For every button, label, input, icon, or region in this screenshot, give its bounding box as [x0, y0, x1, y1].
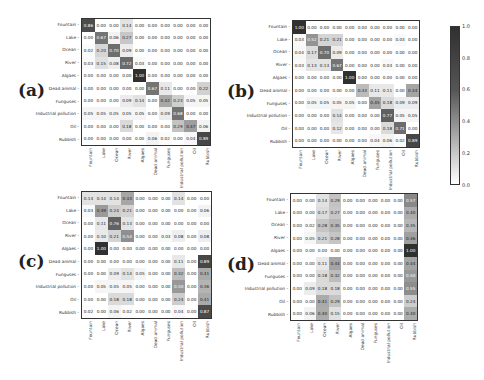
- column-label: Oil: [186, 319, 199, 364]
- matrix-cell: 0.00: [306, 109, 319, 122]
- matrix-cell: 0.00: [356, 34, 369, 47]
- matrix-cell: 0.00: [379, 232, 392, 245]
- matrix-cell: 0.11: [381, 84, 394, 97]
- matrix-cell: 0.05: [121, 280, 134, 293]
- matrix-cell: 0.00: [82, 69, 95, 82]
- matrix-cell: 0.00: [291, 270, 304, 283]
- matrix-cell: 0.17: [316, 207, 329, 220]
- row-label: River -: [21, 56, 81, 69]
- matrix-cell: 0.68: [172, 107, 185, 120]
- confusion-matrix: 0.000.000.140.290.000.000.000.000.000.57…: [290, 193, 418, 321]
- matrix-cell: 0.00: [331, 71, 344, 84]
- matrix-cell: 0.00: [306, 84, 319, 97]
- column-label: Funguses: [367, 321, 380, 366]
- matrix-cell: 0.00: [146, 230, 159, 243]
- matrix-cell: 0.89: [197, 132, 210, 145]
- matrix-cell: 0.00: [134, 255, 147, 268]
- colorbar-tick: 0.0: [462, 182, 470, 188]
- matrix-cell: 0.21: [316, 232, 329, 245]
- colorbar: [450, 26, 460, 185]
- matrix-cell: 0.03: [394, 34, 407, 47]
- matrix-cell: 0.00: [291, 207, 304, 220]
- matrix-cell: 0.00: [197, 69, 210, 82]
- matrix-cell: 0.00: [379, 194, 392, 207]
- matrix-cell: 0.00: [134, 205, 147, 218]
- row-label: Lake -: [230, 206, 290, 219]
- matrix-cell: 0.00: [379, 295, 392, 308]
- matrix-cell: 0.00: [356, 97, 369, 110]
- matrix-cell: 0.04: [184, 132, 197, 145]
- matrix-cell: 0.00: [341, 244, 354, 257]
- confusion-matrix: 0.140.140.140.430.000.000.000.140.000.00…: [81, 191, 212, 319]
- row-label: Industrial pollution -: [232, 110, 292, 123]
- matrix-cell: 0.00: [159, 305, 172, 318]
- matrix-cell: 0.02: [121, 305, 134, 318]
- matrix-cell: 0.15: [95, 57, 108, 70]
- matrix-cell: 0.00: [108, 82, 121, 95]
- matrix-cell: 0.00: [341, 207, 354, 220]
- matrix-cell: 0.00: [146, 242, 159, 255]
- row-label: Lake -: [21, 31, 81, 44]
- matrix-cell: 0.00: [291, 194, 304, 207]
- matrix-cell: 0.03: [293, 34, 306, 47]
- matrix-cell: 0.00: [394, 21, 407, 34]
- matrix-cell: 0.00: [343, 21, 356, 34]
- matrix-cell: 0.00: [185, 242, 198, 255]
- matrix-cell: 0.55: [404, 282, 417, 295]
- matrix-cell: 0.57: [404, 194, 417, 207]
- matrix-cell: 0.00: [341, 194, 354, 207]
- column-label: Lake: [94, 319, 107, 364]
- matrix-cell: 0.40: [404, 207, 417, 220]
- matrix-cell: 0.02: [82, 305, 95, 318]
- matrix-cell: 0.00: [172, 32, 185, 45]
- matrix-cell: 0.00: [184, 19, 197, 32]
- matrix-cell: 0.00: [356, 59, 369, 72]
- matrix-cell: 0.00: [197, 32, 210, 45]
- matrix-cell: 0.18: [381, 97, 394, 110]
- row-label: Ocean -: [21, 217, 81, 230]
- matrix-cell: 0.00: [82, 293, 95, 306]
- row-label: River -: [21, 229, 81, 242]
- matrix-cell: 0.00: [159, 192, 172, 205]
- column-label: Lake: [303, 321, 316, 366]
- matrix-cell: 0.03: [293, 59, 306, 72]
- matrix-cell: 0.00: [369, 46, 382, 59]
- row-label: Oil -: [230, 295, 290, 308]
- matrix-cell: 0.00: [381, 71, 394, 84]
- matrix-cell: 0.00: [197, 19, 210, 32]
- matrix-cell: 0.00: [367, 270, 380, 283]
- row-label: River -: [232, 58, 292, 71]
- column-label: Dead animal: [146, 319, 159, 364]
- matrix-cell: 0.00: [159, 120, 172, 133]
- row-label: Industrial pollution -: [21, 281, 81, 294]
- matrix-cell: 0.00: [343, 59, 356, 72]
- matrix-cell: 0.00: [318, 21, 331, 34]
- matrix-cell: 0.00: [172, 19, 185, 32]
- matrix-cell: 0.00: [406, 122, 419, 135]
- matrix-cell: 0.00: [318, 109, 331, 122]
- matrix-cell: 0.00: [82, 132, 95, 145]
- matrix-cell: 0.14: [120, 19, 133, 32]
- matrix-cell: 0.67: [146, 82, 159, 95]
- matrix-cell: 0.18: [120, 120, 133, 133]
- matrix-cell: 0.00: [293, 109, 306, 122]
- colorbar-ticks: 1.0 0.8 0.6 0.4 0.2 0.0: [462, 26, 482, 185]
- matrix-cell: 0.00: [316, 244, 329, 257]
- matrix-cell: 0.43: [121, 192, 134, 205]
- matrix-cell: 0.33: [356, 84, 369, 97]
- matrix-cell: 0.00: [184, 82, 197, 95]
- matrix-cell: 0.00: [82, 32, 95, 45]
- matrix-cell: 0.00: [134, 280, 147, 293]
- matrix-cell: 0.00: [369, 34, 382, 47]
- matrix-cell: 0.05: [108, 107, 121, 120]
- matrix-cell: 0.00: [82, 82, 95, 95]
- row-label: Oil -: [21, 293, 81, 306]
- matrix-cell: 0.00: [293, 84, 306, 97]
- matrix-cell: 1.00: [95, 242, 108, 255]
- matrix-cell: 0.44: [406, 84, 419, 97]
- matrix-cell: 0.05: [394, 109, 407, 122]
- matrix-cell: 0.00: [172, 205, 185, 218]
- matrix-cell: 0.00: [120, 82, 133, 95]
- matrix-cell: 0.22: [197, 82, 210, 95]
- column-labels: FountainLakeOceanRiverAlgaesDead animalF…: [290, 321, 418, 366]
